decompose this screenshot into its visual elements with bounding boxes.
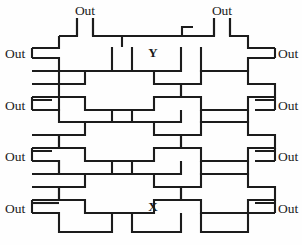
trace-top-rail [122,18,275,48]
trace-cross-r2c2 [181,174,275,213]
out-label-left-1: Out [5,46,25,61]
trace-row2-mid2 [201,161,248,174]
out-label-top-1: Out [75,3,95,18]
figure-container: Out Out Out Out Out Out Out Out Out Out … [0,0,302,245]
stub-out-left-1 [32,48,52,58]
stub-out-right-1 [255,48,275,58]
trace-bottom-mid1 [132,213,181,232]
out-label-left-3: Out [5,149,25,164]
trace-bottom-mid2 [201,213,275,232]
x-axis-label: X [148,199,158,214]
out-label-left-2: Out [5,98,25,113]
trace-row1-mid2 [201,110,248,122]
trace-cross-r0c1 [59,71,181,110]
trace-cross-r1c2 [181,122,275,161]
trace-row2-mid1 [132,161,181,174]
trace-cross-r1c1 [59,122,181,161]
trace-row2-left-edge [32,161,112,174]
trace-cross-r0c0-body [32,71,59,84]
stub-out-left-4 [32,203,52,213]
stub-out-right-3 [255,151,275,161]
stub-out-left-2 [32,100,52,110]
out-label-top-2: Out [212,3,232,18]
cross-lattice-svg: Out Out Out Out Out Out Out Out Out Out … [0,0,302,245]
stub-out-top-2 [214,18,230,36]
trace-bottom-left [32,213,112,232]
out-label-right-3: Out [278,149,298,164]
out-label-left-4: Out [5,201,25,216]
trace-cross-r0c2 [181,71,275,110]
trace-left-gutter-r1 [32,135,59,148]
trace-row1-left-edge [32,110,112,122]
trace-row1-mid1 [132,110,181,122]
y-axis-label: Y [148,45,158,60]
out-label-right-2: Out [278,98,298,113]
out-label-right-1: Out [278,46,298,61]
stub-out-left-3 [32,151,52,161]
stub-out-top-1 [77,18,93,36]
stub-out-right-2 [255,100,275,110]
out-label-right-4: Out [278,201,298,216]
trace-node-r0c0 [32,18,193,48]
trace-left-gutter-r2 [32,187,59,200]
stub-out-right-4 [255,203,275,213]
trace-left-gutter-r1b [32,161,59,174]
trace-cross-r2c1 [59,174,181,213]
